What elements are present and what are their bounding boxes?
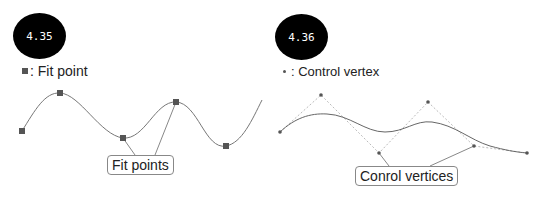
fit-points-leader-2 — [155, 102, 176, 155]
control-spline-curve — [280, 114, 527, 153]
fit-points-callout-label: Fit points — [112, 157, 169, 173]
control-vertices-callout-label: Conrol vertices — [360, 168, 453, 184]
control-polygon — [280, 95, 527, 153]
fit-points-callout: Fit points — [107, 155, 174, 175]
control-vertices-callout: Conrol vertices — [355, 166, 458, 186]
control-vertices-leader-1 — [379, 153, 389, 166]
control-vertices-leader-2 — [430, 146, 474, 166]
fit-spline-curve — [22, 93, 262, 146]
control-vertex-markers — [278, 93, 529, 155]
curves-diagram — [0, 0, 544, 198]
